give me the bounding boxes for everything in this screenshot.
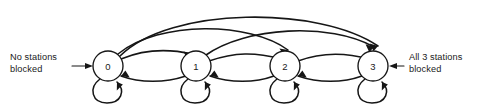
state-node-3[interactable]: 3 xyxy=(358,51,388,81)
diagram-canvas: 0 1 2 3 No stations blocked All 3 statio… xyxy=(0,0,485,107)
state-label-3: 3 xyxy=(370,61,375,72)
edge-path-1-0 xyxy=(121,76,186,81)
transition-1-to-0 xyxy=(121,71,186,82)
state-label-2: 2 xyxy=(282,61,287,72)
self-loop-3 xyxy=(358,79,388,103)
self-loop-1 xyxy=(181,79,211,103)
left-pointer-arrow-icon xyxy=(72,63,93,69)
self-loop-0 xyxy=(93,79,123,103)
transition-0-to-1 xyxy=(121,51,192,60)
left-pointer-arrowhead xyxy=(85,63,93,69)
self-loop-2 xyxy=(270,79,300,103)
right-pointer-arrowhead xyxy=(389,63,397,69)
left-annotation: No stations blocked xyxy=(10,52,93,74)
right-annotation-line-1: All 3 stations xyxy=(409,52,463,62)
transition-0-to-2 xyxy=(118,29,288,56)
transition-3-to-2 xyxy=(298,71,362,82)
state-transition-diagram: 0 1 2 3 No stations blocked All 3 statio… xyxy=(0,0,485,107)
edge-path-3-2 xyxy=(298,76,362,81)
transition-2-to-1 xyxy=(210,71,274,82)
edge-path-0-2 xyxy=(118,29,288,54)
edge-path-0-1 xyxy=(121,51,192,59)
right-annotation-line-2: blocked xyxy=(409,64,441,74)
edge-path-1-2 xyxy=(209,54,281,61)
edge-path-2-1 xyxy=(210,76,274,81)
state-label-0: 0 xyxy=(105,61,110,72)
state-node-1[interactable]: 1 xyxy=(181,51,211,81)
state-node-0[interactable]: 0 xyxy=(93,51,123,81)
edge-path-2-3 xyxy=(298,54,369,61)
right-pointer-arrow-icon xyxy=(389,63,404,69)
left-annotation-line-1: No stations xyxy=(10,52,57,62)
left-annotation-line-2: blocked xyxy=(10,64,42,74)
state-node-2[interactable]: 2 xyxy=(270,51,300,81)
right-annotation: All 3 stations blocked xyxy=(389,52,463,74)
state-label-1: 1 xyxy=(193,61,198,72)
